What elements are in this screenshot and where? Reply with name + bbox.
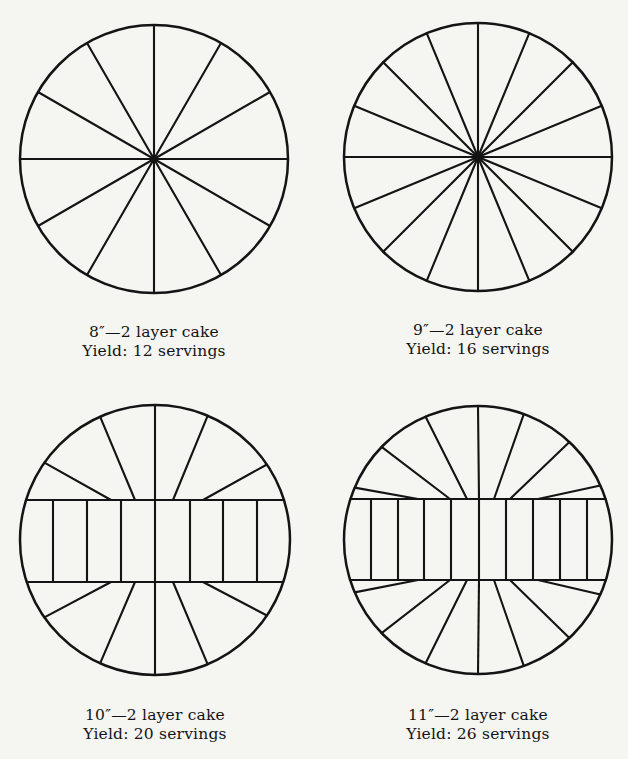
bottom-cap-wedge-cut — [355, 580, 418, 592]
cut-line-radial — [383, 62, 478, 157]
top-cap-wedge-cut — [203, 465, 267, 501]
cake-11-inch — [344, 406, 612, 674]
cake-9-inch — [344, 23, 612, 291]
cut-line-radial — [478, 157, 573, 252]
cut-line-radial — [154, 159, 221, 275]
cut-line-radial — [87, 159, 154, 275]
cake-caption-8-inch: 8″—2 layer cake Yield: 12 servings — [4, 323, 304, 361]
bottom-cap-wedge-cut — [510, 580, 569, 638]
top-cap-wedge-cut — [44, 463, 111, 500]
top-cap-wedge-cut — [538, 486, 600, 500]
top-cap-wedge-cut — [510, 442, 569, 499]
cut-line-radial — [38, 159, 154, 226]
cake-caption-10-inch: 10″—2 layer cake Yield: 20 servings — [5, 706, 305, 744]
bottom-cap-wedge-cut — [494, 580, 524, 666]
cut-line-radial — [154, 92, 270, 159]
cake-center-point — [151, 156, 157, 162]
top-cap-wedge-cut — [426, 417, 467, 499]
cake-10-inch — [20, 405, 290, 675]
top-cap-wedge-cut — [355, 488, 418, 499]
cut-line-radial — [383, 157, 478, 252]
cut-line-radial — [478, 62, 573, 157]
bottom-cap-wedge-cut — [478, 580, 479, 674]
bottom-cap-wedge-cut — [203, 582, 267, 616]
cake-caption-9-inch: 9″—2 layer cake Yield: 16 servings — [328, 321, 628, 359]
bottom-cap-wedge-cut — [426, 580, 467, 663]
cake-yield-label: Yield: 20 servings — [5, 725, 305, 744]
top-cap-wedge-cut — [382, 447, 450, 499]
cut-line-radial — [154, 159, 270, 226]
cake-8-inch — [20, 25, 288, 293]
cake-yield-label: Yield: 26 servings — [328, 725, 628, 744]
cut-line-radial — [38, 92, 154, 159]
cake-caption-11-inch: 11″—2 layer cake Yield: 26 servings — [328, 706, 628, 744]
cake-center-point — [475, 154, 481, 160]
top-cap-wedge-cut — [478, 406, 479, 499]
cut-line-radial — [87, 43, 154, 159]
cake-size-label: 8″—2 layer cake — [4, 323, 304, 342]
cake-cutting-diagram: 8″—2 layer cake Yield: 12 servings 9″—2 … — [0, 0, 628, 759]
cake-yield-label: Yield: 16 servings — [328, 340, 628, 359]
cake-diagrams-canvas — [0, 0, 628, 759]
top-cap-wedge-cut — [100, 417, 135, 500]
bottom-cap-wedge-cut — [382, 580, 450, 633]
bottom-cap-wedge-cut — [173, 582, 208, 664]
bottom-cap-wedge-cut — [44, 582, 111, 617]
bottom-cap-wedge-cut — [100, 582, 135, 663]
cut-line-radial — [154, 43, 221, 159]
top-cap-wedge-cut — [494, 414, 524, 499]
cake-size-label: 11″—2 layer cake — [328, 706, 628, 725]
bottom-cap-wedge-cut — [538, 580, 600, 595]
top-cap-wedge-cut — [173, 416, 208, 500]
cake-size-label: 9″—2 layer cake — [328, 321, 628, 340]
cake-size-label: 10″—2 layer cake — [5, 706, 305, 725]
cake-yield-label: Yield: 12 servings — [4, 342, 304, 361]
